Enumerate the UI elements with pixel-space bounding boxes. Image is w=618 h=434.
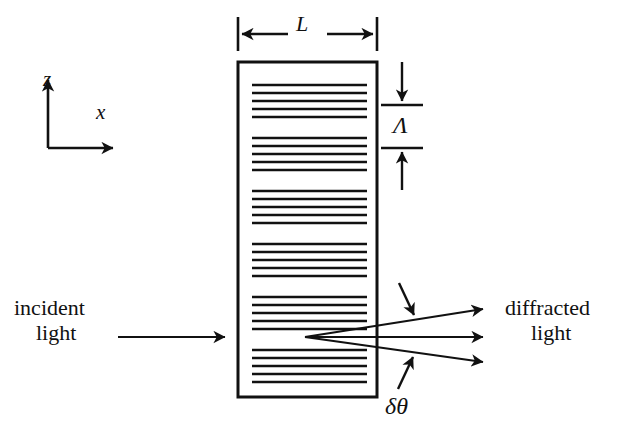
x-axis-label: x <box>96 101 105 125</box>
diffracted-light-label: diffracted light <box>505 296 590 345</box>
angular-spread-pointer-lower <box>398 357 413 389</box>
length-label: L <box>296 12 308 37</box>
period-label: Λ <box>393 112 408 139</box>
incident-light-label: incident light <box>14 296 85 345</box>
angular-spread-label: δθ <box>385 393 408 420</box>
z-axis-label: z <box>43 68 51 92</box>
incident-light-label-line1: incident <box>14 295 85 320</box>
grating-slab-outline <box>238 62 377 397</box>
diffraction-diagram: z x L Λ δθ incident light diffracted lig… <box>0 0 618 434</box>
diagram-canvas <box>0 0 618 434</box>
diffracted-light-label-line2: light <box>505 321 590 346</box>
diffracted-light-label-line1: diffracted <box>505 295 590 320</box>
incident-light-label-line2: light <box>14 321 85 346</box>
angular-spread-pointer-upper <box>399 283 414 315</box>
